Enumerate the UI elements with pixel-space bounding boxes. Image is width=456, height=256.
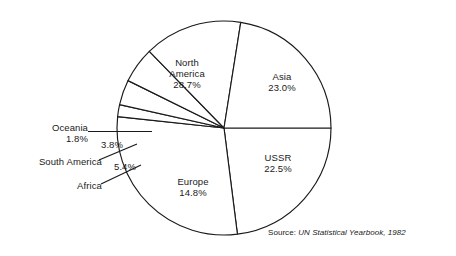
slice-label-ussr-name: USSR bbox=[248, 152, 308, 163]
callout-label-oceania-name: Oceania bbox=[6, 122, 88, 133]
callout-label-africa: Africa bbox=[30, 180, 102, 191]
pie-slice-asia bbox=[224, 128, 331, 234]
source-note-title: UN Statistical Yearbook, 1982 bbox=[298, 228, 406, 237]
callout-label-africa-name: Africa bbox=[30, 180, 102, 191]
callout-label-oceania: Oceania 1.8% bbox=[6, 122, 88, 144]
slice-label-north-america-name2: America bbox=[150, 68, 224, 79]
slice-label-europe-name: Europe bbox=[163, 176, 223, 187]
callout-pct-south-america: 3.8% bbox=[101, 139, 123, 150]
callout-label-oceania-pct: 1.8% bbox=[6, 133, 88, 144]
callout-label-south-america: South America bbox=[2, 156, 102, 167]
callout-label-south-america-name: South America bbox=[2, 156, 102, 167]
slice-label-europe-pct: 14.8% bbox=[163, 187, 223, 198]
slice-label-asia: Asia 23.0% bbox=[252, 71, 312, 93]
pie-slice-group bbox=[117, 21, 331, 235]
slice-label-asia-name: Asia bbox=[252, 71, 312, 82]
slice-label-north-america: North America 28.7% bbox=[150, 57, 224, 91]
callout-pct-africa: 5.4% bbox=[114, 161, 136, 172]
source-note: Source: UN Statistical Yearbook, 1982 bbox=[268, 228, 406, 237]
slice-label-asia-pct: 23.0% bbox=[252, 82, 312, 93]
slice-label-north-america-name: North bbox=[150, 57, 224, 68]
source-note-prefix: Source: bbox=[268, 228, 298, 237]
slice-label-north-america-pct: 28.7% bbox=[150, 79, 224, 90]
callout-pct-south-america-value: 3.8% bbox=[101, 139, 123, 150]
slice-label-europe: Europe 14.8% bbox=[163, 176, 223, 198]
slice-label-ussr: USSR 22.5% bbox=[248, 152, 308, 174]
slice-label-ussr-pct: 22.5% bbox=[248, 163, 308, 174]
callout-pct-africa-value: 5.4% bbox=[114, 161, 136, 172]
pie-chart-figure: North America 28.7% Asia 23.0% USSR 22.5… bbox=[0, 0, 456, 256]
